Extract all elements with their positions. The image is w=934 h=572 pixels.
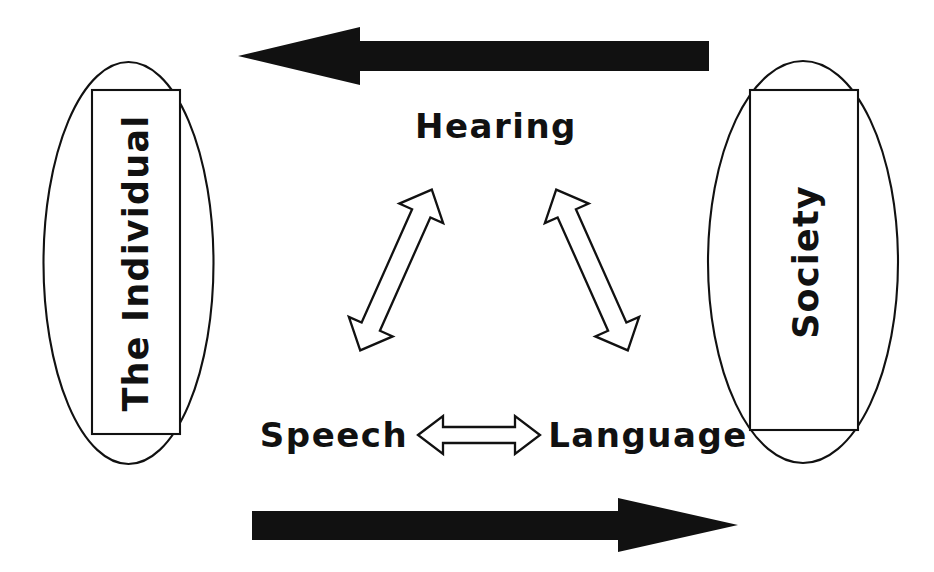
speech-label: Speech <box>260 415 408 455</box>
hearing-language-arrow <box>534 180 649 360</box>
the-individual-label: The Individual <box>116 115 156 412</box>
hearing-label: Hearing <box>415 106 577 146</box>
diagram-svg: The Individual Society Hearing Speech La… <box>0 0 934 572</box>
language-label: Language <box>548 415 748 455</box>
society-to-individual-arrow <box>238 27 709 85</box>
hearing-language-arrow-shape <box>534 180 649 360</box>
speech-language-arrow-shape <box>418 416 540 454</box>
speech-hearing-arrow <box>338 180 453 360</box>
node-society[interactable]: Society <box>708 61 898 463</box>
speech-hearing-arrow-shape <box>338 180 453 360</box>
individual-to-society-arrow-shape <box>252 498 738 552</box>
society-to-individual-arrow-shape <box>238 27 709 85</box>
speech-language-arrow <box>418 416 540 454</box>
society-label: Society <box>786 185 826 339</box>
individual-to-society-arrow <box>252 498 738 552</box>
node-the-individual[interactable]: The Individual <box>44 62 214 464</box>
diagram-canvas: The Individual Society Hearing Speech La… <box>0 0 934 572</box>
